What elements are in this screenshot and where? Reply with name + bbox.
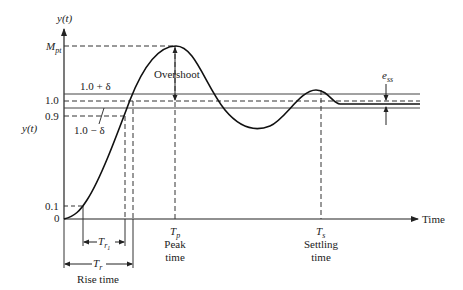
step-response-diagram: y(t) y(t) Time Mpt 1.0 0.9 0.1 0 1.0 + δ… <box>0 0 463 290</box>
mpt-tick-label: Mpt <box>45 40 62 55</box>
zero-nine-tick-label: 0.9 <box>45 110 59 122</box>
zero-tick-label: 0 <box>54 212 60 224</box>
response-curve <box>64 46 420 219</box>
settling-time-line1: Settling <box>304 238 339 250</box>
overshoot-label: Overshoot <box>154 68 200 80</box>
ess-label: ess <box>382 69 393 84</box>
y-side-label: y(t) <box>21 122 38 135</box>
peak-time-line2: time <box>165 251 185 263</box>
settling-time-line2: time <box>311 251 331 263</box>
x-axis-label: Time <box>422 213 445 225</box>
lower-band-label: 1.0 − δ <box>74 124 105 136</box>
peak-time-line1: Peak <box>164 238 186 250</box>
one-tick-label: 1.0 <box>45 94 59 106</box>
y-axis-label: y(t) <box>56 12 73 25</box>
upper-band-label: 1.0 + δ <box>80 80 111 92</box>
zero-one-tick-label: 0.1 <box>45 200 59 212</box>
rise-time-caption: Rise time <box>77 273 119 285</box>
